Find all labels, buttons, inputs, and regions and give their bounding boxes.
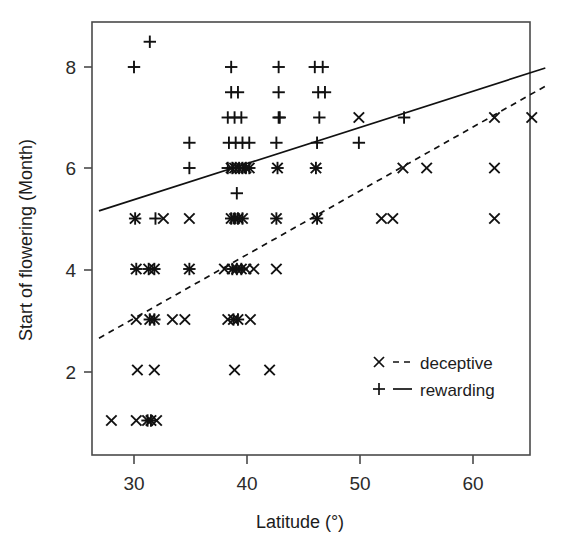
data-point <box>421 163 431 173</box>
data-point <box>376 213 386 223</box>
data-point <box>274 111 286 123</box>
data-point <box>245 314 255 324</box>
series-deceptive <box>99 86 545 426</box>
y-axis-ticks <box>84 67 92 372</box>
legend-entry-deceptive: deceptive <box>374 354 493 373</box>
legend-label-rewarding: rewarding <box>420 381 495 400</box>
y-tick-label-4: 4 <box>65 260 76 281</box>
fit-line-deceptive <box>99 86 545 338</box>
x-tick-label-30: 30 <box>123 473 144 494</box>
data-point <box>128 61 140 73</box>
x-marker-icon <box>374 357 384 367</box>
plus-marker-icon <box>373 383 385 395</box>
fit-line-rewarding <box>99 68 545 211</box>
chart-legend: deceptive rewarding <box>373 354 495 400</box>
data-point <box>231 187 243 199</box>
data-point <box>489 213 499 223</box>
x-axis-tick-labels: 30 40 50 60 <box>123 473 483 494</box>
data-point <box>353 137 365 149</box>
data-point <box>272 86 284 98</box>
data-point <box>180 314 190 324</box>
data-point <box>167 314 177 324</box>
legend-entry-rewarding: rewarding <box>373 381 495 400</box>
y-axis-title: Start of flowering (Month) <box>16 139 36 341</box>
data-point <box>183 162 195 174</box>
data-point <box>144 36 156 48</box>
x-tick-label-60: 60 <box>462 473 483 494</box>
data-point <box>271 264 281 274</box>
legend-label-deceptive: deceptive <box>420 354 493 373</box>
data-point <box>317 61 329 73</box>
data-point <box>183 137 195 149</box>
data-point <box>270 137 282 149</box>
data-point <box>272 61 284 73</box>
data-point <box>106 415 116 425</box>
data-point <box>311 137 323 149</box>
data-point <box>264 365 274 375</box>
data-point <box>313 111 325 123</box>
y-tick-label-8: 8 <box>65 57 76 78</box>
data-point <box>527 112 537 122</box>
x-tick-label-50: 50 <box>349 473 370 494</box>
data-point <box>232 86 244 98</box>
data-point <box>243 137 255 149</box>
data-point <box>225 61 237 73</box>
data-point <box>149 365 159 375</box>
x-axis-ticks <box>134 455 473 464</box>
data-point <box>229 365 239 375</box>
x-tick-label-40: 40 <box>236 473 257 494</box>
data-point <box>354 112 364 122</box>
data-point <box>131 415 141 425</box>
data-point <box>489 112 499 122</box>
data-point <box>388 213 398 223</box>
y-tick-label-6: 6 <box>65 158 76 179</box>
y-tick-label-2: 2 <box>65 362 76 383</box>
data-point <box>249 264 259 274</box>
x-axis-title: Latitude (°) <box>256 512 344 532</box>
data-point <box>398 111 410 123</box>
chart-svg: 8 6 4 2 30 40 50 60 Latitude (°) Start o… <box>0 0 577 547</box>
scatter-plot-figure: 8 6 4 2 30 40 50 60 Latitude (°) Start o… <box>0 0 577 547</box>
data-point <box>235 111 247 123</box>
data-point <box>319 86 331 98</box>
data-point <box>184 213 194 223</box>
data-point <box>132 365 142 375</box>
data-point <box>489 163 499 173</box>
y-axis-tick-labels: 8 6 4 2 <box>65 57 76 383</box>
